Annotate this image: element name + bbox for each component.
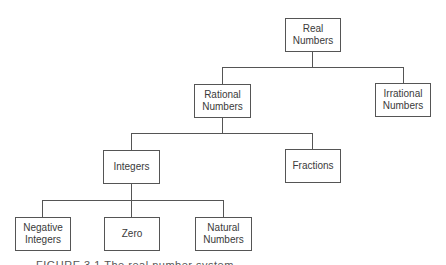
node-fractions: Fractions (285, 149, 341, 183)
node-natural-numbers: NaturalNumbers (195, 217, 252, 251)
connector-real-down (312, 51, 313, 67)
node-label: Zero (122, 228, 143, 240)
node-rational-numbers: RationalNumbers (194, 84, 251, 118)
node-label: Irrational (383, 88, 424, 100)
node-label: Numbers (383, 100, 424, 112)
node-label: Numbers (293, 35, 334, 47)
node-label: Integers (113, 161, 149, 173)
node-negative-integers: NegativeIntegers (15, 217, 71, 251)
connector-rational-branch (131, 133, 313, 134)
connector-to-zero (131, 200, 132, 217)
connector-to-negative-integers (42, 200, 43, 217)
node-zero: Zero (104, 217, 160, 251)
connector-integers-down (131, 183, 132, 200)
node-label: Negative (23, 222, 62, 234)
connector-integers-branch (42, 200, 224, 201)
node-label: Real (293, 23, 334, 35)
node-label: Numbers (203, 234, 244, 246)
node-integers: Integers (103, 150, 160, 184)
connector-rational-down (222, 117, 223, 133)
node-irrational-numbers: IrrationalNumbers (375, 83, 431, 117)
node-label: Natural (203, 222, 244, 234)
node-label: Rational (202, 89, 243, 101)
connector-real-branch (222, 67, 404, 68)
node-real-numbers: RealNumbers (285, 18, 341, 52)
node-label: Fractions (292, 160, 333, 172)
connector-to-integers (131, 133, 132, 150)
node-label: Integers (23, 234, 62, 246)
node-label: Numbers (202, 101, 243, 113)
connector-to-fractions (312, 133, 313, 149)
connector-to-irrational (403, 67, 404, 83)
figure-caption: FIGURE 3.1 The real number system (36, 258, 234, 265)
connector-to-natural-numbers (223, 200, 224, 217)
connector-to-rational (222, 67, 223, 84)
